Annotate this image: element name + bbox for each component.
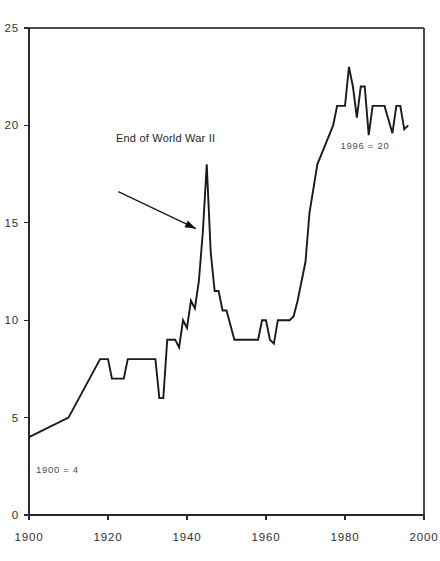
end-value-note: 1996 = 20 <box>341 140 390 151</box>
y-tick-label: 20 <box>4 119 19 131</box>
plot-frame <box>29 28 424 515</box>
y-tick-label: 10 <box>4 314 19 326</box>
chart-container: 0510152025 190019201940196019802000 End … <box>0 0 440 561</box>
x-axis-ticks: 190019201940196019802000 <box>14 515 438 543</box>
y-tick-label: 15 <box>4 217 19 229</box>
start-value-note: 1900 = 4 <box>36 464 79 475</box>
x-tick-label: 1900 <box>14 531 43 543</box>
x-tick-label: 1960 <box>251 531 280 543</box>
data-series-line <box>29 67 408 437</box>
line-chart: 0510152025 190019201940196019802000 End … <box>0 0 440 561</box>
y-axis-ticks: 0510152025 <box>4 22 29 521</box>
x-tick-label: 1920 <box>93 531 122 543</box>
y-tick-label: 0 <box>12 509 19 521</box>
y-tick-label: 25 <box>4 22 19 34</box>
annotation-arrow-line <box>118 192 196 229</box>
x-tick-label: 1980 <box>330 531 359 543</box>
x-tick-label: 2000 <box>409 531 438 543</box>
y-tick-label: 5 <box>12 412 19 424</box>
wwii-annotation-group: End of World War II <box>116 132 215 229</box>
annotation-arrow-head <box>185 220 197 228</box>
wwii-annotation-label: End of World War II <box>116 132 215 144</box>
x-tick-label: 1940 <box>172 531 201 543</box>
